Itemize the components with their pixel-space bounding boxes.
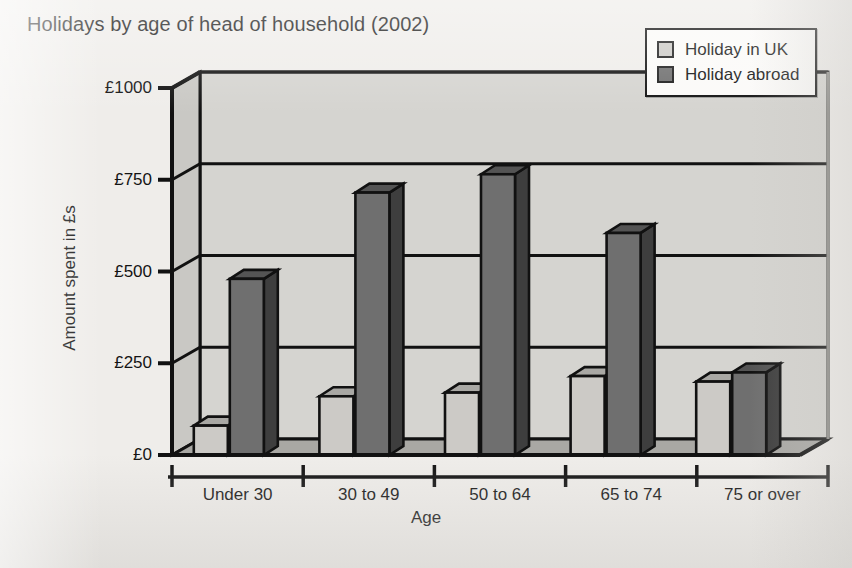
y-axis-tick-label: £1000 (40, 78, 152, 98)
x-axis-title: Age (0, 508, 852, 528)
legend-label-uk: Holiday in UK (685, 40, 788, 60)
y-axis-title: Amount spent in £s (60, 168, 80, 388)
x-axis-tick-label: Under 30 (203, 485, 273, 505)
x-axis-tick-label: 65 to 74 (600, 485, 661, 505)
y-axis-tick-label: £250 (40, 353, 152, 373)
chart-legend: Holiday in UK Holiday abroad (645, 28, 817, 97)
y-axis-tick-label: £750 (40, 170, 152, 190)
legend-swatch-abroad (657, 66, 674, 83)
x-axis-tick-label: 30 to 49 (338, 485, 399, 505)
x-axis-tick-label: 75 or over (724, 485, 801, 505)
legend-label-abroad: Holiday abroad (685, 65, 799, 85)
chart-page: Holidays by age of head of household (20… (0, 0, 852, 568)
legend-swatch-uk (657, 41, 674, 58)
legend-item[interactable]: Holiday abroad (657, 62, 799, 87)
legend-item[interactable]: Holiday in UK (657, 37, 799, 62)
x-axis-tick-label: 50 to 64 (469, 485, 530, 505)
y-axis-tick-label: £0 (40, 445, 152, 465)
y-axis-tick-label: £500 (40, 262, 152, 282)
